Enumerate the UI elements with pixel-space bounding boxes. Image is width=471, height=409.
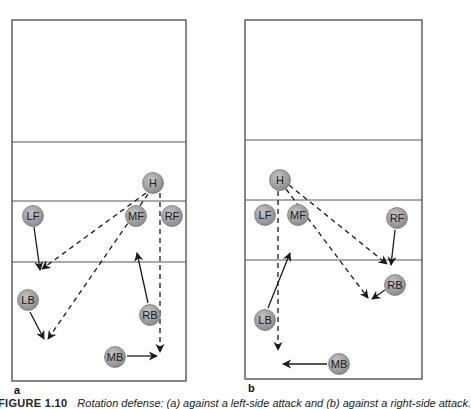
player-label: RB <box>387 279 402 291</box>
player-rb: RB <box>385 275 406 296</box>
player-rf: RF <box>162 206 183 227</box>
player-rf: RF <box>387 208 408 229</box>
player-mb: MB <box>105 347 126 368</box>
player-rb: RB <box>140 305 161 326</box>
caption-text: Rotation defense: (a) against a left-sid… <box>77 397 471 409</box>
player-label: RB <box>142 309 157 321</box>
player-label: LB <box>258 314 271 326</box>
player-lf: LF <box>255 205 276 226</box>
player-label: H <box>149 177 157 189</box>
player-label: MB <box>331 358 348 370</box>
movement-arrow-rb <box>137 253 148 303</box>
player-mf: MF <box>126 206 147 227</box>
panel-label-a: a <box>14 384 20 396</box>
movement-arrow-lb <box>30 312 44 339</box>
panel-label-b: b <box>248 382 255 394</box>
player-label: MF <box>128 210 144 222</box>
player-lb: LB <box>18 290 39 311</box>
player-label: LF <box>27 210 40 222</box>
player-label: RF <box>165 210 180 222</box>
player-mb: MB <box>329 354 350 375</box>
dashed-path-arrow-h <box>289 185 387 264</box>
player-label: MF <box>290 209 306 221</box>
player-h: H <box>143 173 164 194</box>
movement-arrow-lb <box>268 253 290 308</box>
player-label: LB <box>21 294 34 306</box>
player-label: LF <box>259 209 272 221</box>
player-mf: MF <box>288 205 309 226</box>
player-lb: LB <box>255 310 276 331</box>
movement-arrow-lf <box>34 227 40 270</box>
player-label: MB <box>107 351 124 363</box>
panel-b: HLFMFRFRBLBMB <box>245 20 422 379</box>
movement-arrow-rb <box>372 290 385 299</box>
panel-a: HLFMFRFLBRBMB <box>12 20 186 381</box>
player-lf: LF <box>23 206 44 227</box>
dashed-path-arrow-h <box>42 193 146 269</box>
figure-caption: FIGURE 1.10Rotation defense: (a) against… <box>0 397 468 409</box>
player-label: H <box>276 174 284 186</box>
caption-figure-number: FIGURE 1.10 <box>0 397 67 409</box>
player-label: RF <box>390 212 405 224</box>
player-h: H <box>270 170 291 191</box>
